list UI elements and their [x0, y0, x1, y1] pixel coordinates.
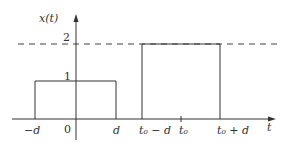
- y-axis-label: x(t): [39, 13, 58, 24]
- x-tick-t0-plus-d: t₀ + d: [217, 125, 249, 136]
- x-tick-neg-d: −d: [24, 125, 40, 136]
- x-tick-0: 0: [64, 124, 71, 135]
- signal-diagram: x(t) 2 1 −d 0 d t₀ − d t₀ t₀ + d t: [0, 0, 282, 148]
- y-axis-arrow-icon: [74, 14, 79, 22]
- y-tick-2: 2: [63, 32, 70, 43]
- x-tick-d: d: [113, 125, 120, 136]
- y-tick-1: 1: [64, 71, 71, 82]
- x-tick-t0-minus-d: t₀ − d: [139, 125, 171, 136]
- pulse-2: [142, 44, 220, 119]
- x-tick-t0: t₀: [179, 125, 188, 136]
- x-axis-label: t: [267, 122, 271, 133]
